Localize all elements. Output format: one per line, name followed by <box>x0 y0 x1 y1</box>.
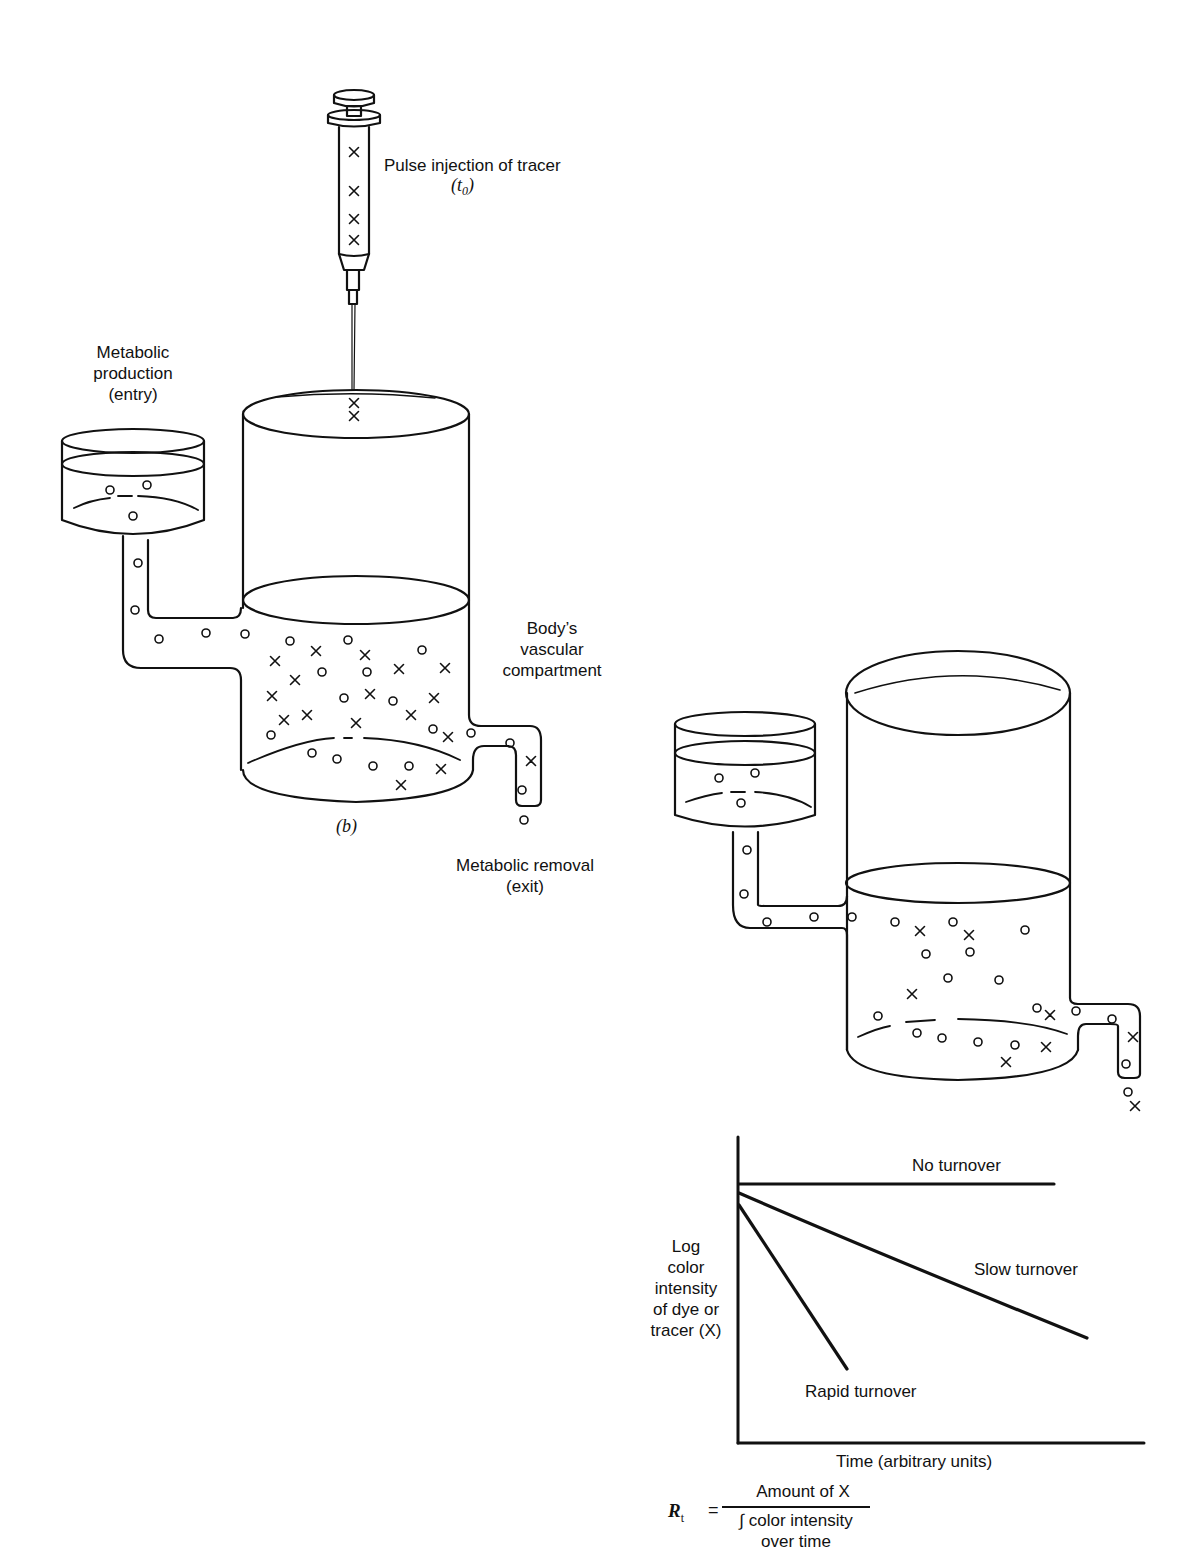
compartment-label-line3: compartment <box>487 660 617 681</box>
entry-tube-later <box>733 832 856 1050</box>
slow-turnover-label: Slow turnover <box>974 1259 1078 1280</box>
denominator-line1: ∫ color intensity <box>720 1510 872 1531</box>
time-open: (t <box>451 175 462 195</box>
entry-tube <box>123 536 249 770</box>
entry-reservoir <box>62 429 204 534</box>
compartment-label-line2: vascular <box>487 639 617 660</box>
y-axis-label-line1: Log <box>640 1236 732 1257</box>
exit-label-line2: (exit) <box>445 876 605 897</box>
denominator-line2: over time <box>720 1531 872 1552</box>
turnover-chart <box>738 1137 1144 1443</box>
y-axis-label-line2: color <box>640 1257 732 1278</box>
vascular-compartment <box>243 390 541 824</box>
exit-label: Metabolic removal (exit) <box>445 855 605 897</box>
exit-label-line1: Metabolic removal <box>445 855 605 876</box>
time-close: ) <box>468 175 474 195</box>
fraction-bar <box>722 1506 870 1508</box>
formula-denominator: ∫ color intensity over time <box>720 1510 872 1552</box>
formula-equals: = <box>708 1500 719 1521</box>
formula-lhs: Rt <box>668 1500 684 1526</box>
entry-label-line2: production <box>85 363 181 384</box>
y-axis-label-line3: intensity <box>640 1278 732 1299</box>
entry-label-line1: Metabolic <box>85 342 181 363</box>
formula-numerator: Amount of X <box>728 1482 878 1502</box>
formula-r: R <box>668 1500 681 1521</box>
formula-sub-t: t <box>681 1511 684 1525</box>
diagram-canvas <box>0 0 1203 1559</box>
line-rapid-turnover <box>739 1205 847 1369</box>
entry-label: Metabolic production (entry) <box>85 342 181 405</box>
syringe-label: Pulse injection of tracer <box>384 155 561 176</box>
compartment-label: Body’s vascular compartment <box>487 618 617 681</box>
rapid-turnover-label: Rapid turnover <box>805 1381 917 1402</box>
y-axis-label-line4: of dye or <box>640 1299 732 1320</box>
x-axis-label: Time (arbitrary units) <box>836 1451 992 1472</box>
compartment-label-line1: Body’s <box>487 618 617 639</box>
entry-label-line3: (entry) <box>85 384 181 405</box>
entry-reservoir-later <box>675 712 815 827</box>
syringe-icon <box>328 90 380 390</box>
no-turnover-label: No turnover <box>912 1155 1001 1176</box>
vascular-compartment-later <box>846 651 1140 1111</box>
syringe-time-label: (t0) <box>451 175 474 202</box>
y-axis-label: Log color intensity of dye or tracer (X) <box>640 1236 732 1341</box>
panel-label: (b) <box>336 816 357 837</box>
y-axis-label-line5: tracer (X) <box>640 1320 732 1341</box>
